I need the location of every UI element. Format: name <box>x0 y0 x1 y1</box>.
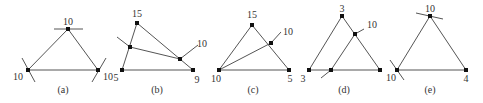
vertex-label: 10 <box>425 3 435 14</box>
edge-line <box>397 16 430 70</box>
vertex-label: 5 <box>288 73 293 84</box>
vertex-dot <box>307 68 311 72</box>
edge-line <box>331 34 355 70</box>
edge-line <box>219 43 271 70</box>
panel-caption: (a) <box>57 84 68 96</box>
vertex-label: 10 <box>211 73 221 84</box>
vertex-dot <box>26 68 30 72</box>
vertex-label: 4 <box>464 73 469 84</box>
panel-caption: (b) <box>151 84 163 96</box>
vertex-label: 3 <box>340 3 345 14</box>
vertex-dot <box>120 68 124 72</box>
vertex-dot <box>178 57 182 61</box>
vertex-label: 10 <box>283 26 293 37</box>
vertex-dot <box>464 68 468 72</box>
vertex-dot <box>128 45 132 49</box>
vertex-label: 10 <box>197 38 207 49</box>
vertex-label: 10 <box>63 16 73 27</box>
edge-line <box>430 16 466 70</box>
panel-d: 3310(d) <box>301 3 383 96</box>
vertex-dot <box>250 23 254 27</box>
edge-line <box>219 25 252 70</box>
vertex-label: 15 <box>247 9 257 20</box>
vertex-label: 5 <box>114 72 119 83</box>
panel-c: 1510510(c) <box>211 9 293 96</box>
figure-canvas: 101010(a)155910(b)1510510(c)3310(d)10104… <box>0 0 483 103</box>
edge-line <box>309 16 342 70</box>
vertex-dot <box>217 68 221 72</box>
vertex-dot <box>135 21 139 25</box>
vertex-label: 3 <box>301 73 306 84</box>
vertex-dot <box>340 14 344 18</box>
vertex-dot <box>96 68 100 72</box>
vertex-dot <box>353 32 357 36</box>
vertex-dot <box>428 14 432 18</box>
edge-line <box>28 29 68 70</box>
vertex-dot <box>378 68 382 72</box>
vertex-label: 15 <box>132 8 142 19</box>
panel-caption: (d) <box>338 84 350 96</box>
panel-e: 10104(e) <box>386 3 469 96</box>
vertex-label: 10 <box>386 72 396 83</box>
vertex-label: 10 <box>103 71 113 82</box>
triangle-diagram-figure: 101010(a)155910(b)1510510(c)3310(d)10104… <box>0 0 483 103</box>
edge-line <box>137 23 193 70</box>
vertex-label: 9 <box>195 74 200 85</box>
vertex-label: 10 <box>13 71 23 82</box>
vertex-dot <box>66 27 70 31</box>
tick-line <box>180 45 198 59</box>
panel-b: 155910(b) <box>114 8 208 96</box>
panel-caption: (e) <box>424 84 435 96</box>
vertex-dot <box>329 68 333 72</box>
vertex-dot <box>269 41 273 45</box>
vertex-dot <box>191 68 195 72</box>
panel-a: 101010(a) <box>13 16 113 96</box>
vertex-dot <box>287 68 291 72</box>
edge-line <box>68 29 98 70</box>
vertex-label: 10 <box>367 19 377 30</box>
panel-caption: (c) <box>247 84 258 96</box>
